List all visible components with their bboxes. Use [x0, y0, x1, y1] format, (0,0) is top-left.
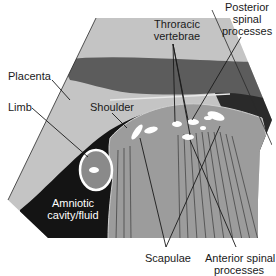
vertebra-echo-2	[187, 119, 199, 125]
label-amniotic-cavity: Amniotic cavity/fluid	[42, 197, 104, 221]
label-posterior-line2: spinal	[222, 13, 272, 25]
label-anterior-line2: processes	[205, 264, 273, 276]
label-scapulae: Scapulae	[145, 252, 191, 264]
label-posterior-line1: Posterior	[222, 1, 272, 13]
label-limb: Limb	[8, 101, 32, 113]
label-thoracic-vertebrae: Throracic vertebrae	[149, 18, 205, 42]
vertebra-echo-1	[172, 121, 182, 127]
label-thoracic-line2: vertebrae	[149, 30, 205, 42]
label-amniotic-line2: cavity/fluid	[42, 209, 104, 221]
label-posterior-line3: processes	[222, 25, 272, 37]
label-placenta: Placenta	[8, 70, 51, 82]
vertebra-echo-3	[200, 126, 206, 130]
label-anterior-line1: Anterior spinal	[205, 252, 273, 264]
label-posterior-spinal: Posterior spinal processes	[222, 1, 272, 37]
posterior-process-echo-2	[204, 116, 212, 120]
label-thoracic-line1: Throracic	[149, 18, 205, 30]
limb-bone-echo	[89, 167, 99, 173]
label-anterior-spinal: Anterior spinal processes	[205, 252, 273, 276]
anterior-process-echo	[182, 134, 194, 140]
label-shoulder: Shoulder	[90, 101, 134, 113]
label-amniotic-line1: Amniotic	[42, 197, 104, 209]
